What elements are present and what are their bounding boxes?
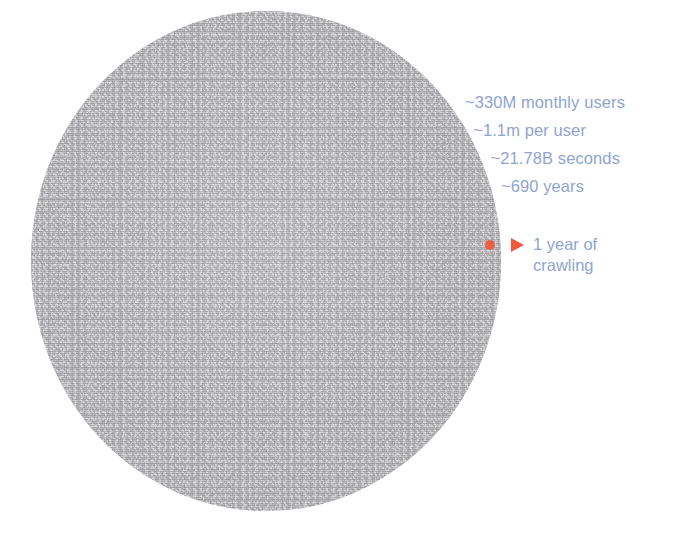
callout-line-1: 1 year of	[533, 234, 663, 255]
circle-vignette	[31, 11, 501, 511]
circle-fill	[31, 11, 501, 511]
stat-line-total-seconds: ~21.78B seconds	[400, 144, 660, 172]
stat-line-total-years: ~690 years	[400, 172, 660, 200]
stat-line-monthly-users: ~330M monthly users	[400, 88, 660, 116]
callout-arrow-icon	[511, 238, 524, 252]
one-year-marker-dot	[485, 240, 495, 250]
stats-block: ~330M monthly users ~1.1m per user ~21.7…	[400, 88, 660, 200]
stat-line-per-user: ~1.1m per user	[400, 116, 660, 144]
infographic-canvas: ~330M monthly users ~1.1m per user ~21.7…	[0, 0, 676, 533]
crawl-volume-circle	[31, 11, 501, 511]
one-year-callout: 1 year of crawling	[533, 234, 663, 276]
callout-line-2: crawling	[533, 255, 663, 276]
